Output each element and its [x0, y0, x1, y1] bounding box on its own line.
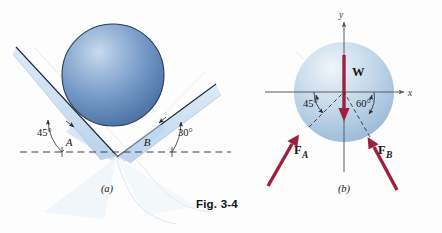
sphere-a [62, 24, 164, 126]
angle-label-45-a: 45° [37, 127, 52, 138]
force-b-subscript: B [385, 150, 392, 160]
panel-b: y x W 45° 60° [265, 10, 413, 195]
angle-label-60-b: 60° [356, 98, 371, 109]
figure-canvas: 45° A B 30° (a) Fig. 3-4 y x W [0, 0, 442, 233]
axis-x-label: x [407, 88, 413, 98]
point-label-b: B [144, 136, 151, 148]
figure-caption: Fig. 3-4 [196, 198, 238, 210]
figure-3-4: 45° A B 30° (a) Fig. 3-4 y x W [0, 0, 442, 233]
force-b-label: F [378, 143, 386, 157]
force-a-subscript: A [301, 150, 308, 160]
panel-a: 45° A B 30° (a) [13, 24, 231, 224]
wedge-shadow-wash [44, 158, 196, 219]
weight-label: W [352, 65, 365, 79]
panel-a-caption: (a) [101, 183, 114, 195]
angle-label-30-a: 30° [178, 127, 193, 138]
panel-b-caption: (b) [338, 183, 351, 195]
angle-label-45-b: 45° [303, 98, 318, 109]
force-a-label: F [294, 143, 302, 157]
point-label-a: A [65, 136, 73, 148]
axis-y-label: y [338, 10, 344, 20]
